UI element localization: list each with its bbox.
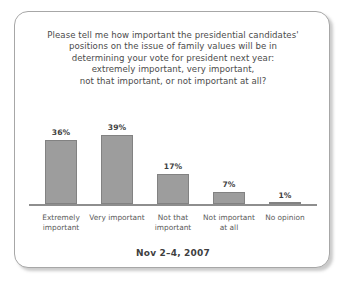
x-axis-label-line: Not that — [145, 213, 201, 223]
x-axis-label: Not thatimportant — [145, 213, 201, 232]
question-line-2: positions on the issue of family values … — [31, 41, 315, 52]
question-line-4: extremely important, very important, — [31, 64, 315, 75]
x-axis-line — [29, 204, 317, 206]
x-axis-label-line: important — [145, 223, 201, 233]
bar-value-label: 17% — [151, 162, 195, 171]
x-axis-label: No opinion — [257, 213, 313, 223]
bar-value-label: 36% — [39, 128, 83, 137]
x-axis-label-line: Extremely — [33, 213, 89, 223]
bar — [101, 135, 133, 204]
bar-value-label: 39% — [95, 123, 139, 132]
bar — [45, 140, 77, 204]
poll-date: Nov 2–4, 2007 — [31, 248, 315, 258]
bar-chart: 36%39%17%7%1% — [29, 116, 317, 212]
bar — [157, 174, 189, 204]
bar — [213, 192, 245, 204]
x-axis-labels: ExtremelyimportantVery importantNot that… — [29, 208, 317, 236]
x-axis-label: Extremelyimportant — [33, 213, 89, 232]
x-axis-label-line: No opinion — [257, 213, 313, 223]
x-axis-label-line: at all — [201, 223, 257, 233]
bar-value-label: 1% — [263, 191, 307, 200]
plot-area: 36%39%17%7%1% — [29, 116, 317, 204]
question-line-5: not that important, or not important at … — [31, 76, 315, 87]
screenshot-root: Please tell me how important the preside… — [0, 0, 354, 288]
question-line-3: determining your vote for president next… — [31, 53, 315, 64]
question-title: Please tell me how important the preside… — [31, 30, 315, 87]
question-line-1: Please tell me how important the preside… — [31, 30, 315, 41]
x-axis-label: Very important — [89, 213, 145, 223]
x-axis-label-line: Very important — [89, 213, 145, 223]
x-axis-label-line: important — [33, 223, 89, 233]
chart-card: Please tell me how important the preside… — [14, 11, 330, 268]
x-axis-label: Not importantat all — [201, 213, 257, 232]
x-axis-label-line: Not important — [201, 213, 257, 223]
bar-value-label: 7% — [207, 180, 251, 189]
